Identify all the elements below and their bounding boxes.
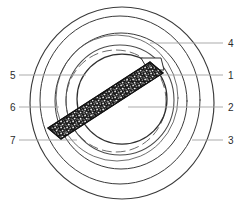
technical-drawing-figure: 5 6 7 4 1 2 3 [0,0,245,205]
stippled-bar-group [40,55,175,150]
drawing-canvas: 5 6 7 4 1 2 3 [0,0,245,205]
ring-outlines [30,7,214,199]
outer-ring-1-icon [30,7,214,199]
callout-5-label: 5 [10,70,16,81]
callout-3-label: 3 [228,135,234,146]
callout-7-label: 7 [10,135,16,146]
callout-1-label: 1 [228,70,234,81]
callout-2-label: 2 [228,102,234,113]
bar-speckle-overlay [40,55,175,150]
callout-6-label: 6 [10,102,16,113]
callout-4-label: 4 [228,38,234,49]
